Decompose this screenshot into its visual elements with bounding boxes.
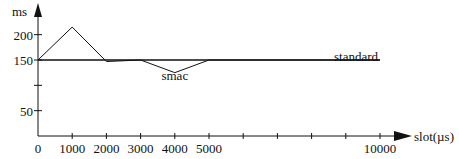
y-tick-label: 50	[20, 104, 33, 119]
x-tick-label: 0	[35, 141, 42, 156]
y-axis-arrow-icon	[34, 3, 42, 17]
x-tick-label: 2000	[93, 141, 119, 156]
series-smac	[38, 27, 380, 73]
axis-labels: 0100020003000400050001000050150200msslot…	[12, 4, 454, 156]
x-tick-label: 5000	[196, 141, 222, 156]
annotation-smac: smac	[161, 68, 188, 83]
y-tick-label: 200	[14, 28, 34, 43]
x-tick-label: 1000	[59, 141, 85, 156]
annotation-standard: standard	[334, 49, 379, 64]
x-tick-label: 10000	[364, 141, 397, 156]
series-lines	[38, 27, 380, 73]
y-tick-label: 150	[14, 53, 34, 68]
line-chart: 0100020003000400050001000050150200msslot…	[0, 0, 459, 159]
x-tick-label: 3000	[128, 141, 154, 156]
x-tick-label: 4000	[162, 141, 188, 156]
axes	[34, 3, 412, 141]
x-axis-arrow-icon	[394, 131, 412, 141]
x-axis-label: slot(µs)	[414, 129, 454, 144]
y-axis-label: ms	[12, 4, 27, 19]
